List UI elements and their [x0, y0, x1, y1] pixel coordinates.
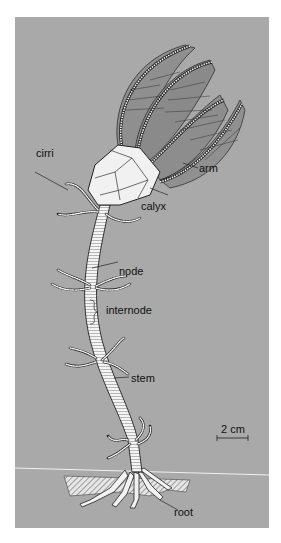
- stem-column: [85, 205, 142, 472]
- label-internode: internode: [106, 305, 152, 316]
- scale-bar-label: 2 cm: [221, 424, 245, 435]
- label-node: node: [119, 266, 143, 277]
- label-calyx: calyx: [141, 201, 166, 212]
- label-cirri: cirri: [36, 148, 54, 159]
- scale-bar-line: [217, 435, 248, 441]
- label-arm: arm: [199, 163, 218, 174]
- label-stem: stem: [131, 373, 155, 384]
- label-root: root: [174, 507, 193, 518]
